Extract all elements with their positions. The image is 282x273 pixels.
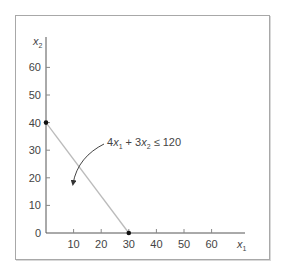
y-tick-label: 40 bbox=[29, 117, 41, 129]
x-ticks bbox=[74, 229, 212, 233]
x-tick-label: 50 bbox=[178, 238, 190, 250]
x-tick-label: 30 bbox=[123, 238, 135, 250]
constraint-annotation: 4x1 + 3x2 ≤ 120 bbox=[107, 136, 181, 150]
y-axis-label: x2 bbox=[32, 35, 43, 49]
plot-area: 0 10 20 30 40 50 60 10 20 30 40 50 60 x2… bbox=[0, 0, 282, 273]
chart-container: 0 10 20 30 40 50 60 10 20 30 40 50 60 x2… bbox=[0, 0, 282, 273]
x-tick-label: 40 bbox=[150, 238, 162, 250]
x-tick-label: 10 bbox=[67, 238, 79, 250]
x-axis-label: x1 bbox=[236, 238, 247, 252]
x-tick-label: 60 bbox=[205, 238, 217, 250]
y-tick-label: 30 bbox=[29, 144, 41, 156]
y-intercept-marker bbox=[44, 120, 49, 125]
x-tick-label: 20 bbox=[95, 238, 107, 250]
y-ticks bbox=[46, 67, 50, 205]
y-tick-label: 10 bbox=[29, 199, 41, 211]
y-tick-label: 0 bbox=[35, 227, 41, 239]
y-tick-label: 60 bbox=[29, 61, 41, 73]
y-tick-label: 20 bbox=[29, 172, 41, 184]
y-tick-label: 50 bbox=[29, 89, 41, 101]
x-tick-labels: 10 20 30 40 50 60 bbox=[67, 238, 217, 250]
y-tick-labels: 0 10 20 30 40 50 60 bbox=[29, 61, 41, 239]
x-intercept-marker bbox=[127, 231, 132, 236]
